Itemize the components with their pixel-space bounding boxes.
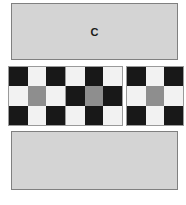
checker-cell	[9, 67, 28, 86]
checker-cell	[46, 86, 65, 105]
top-gray-panel: C	[11, 3, 178, 60]
checker-cell	[28, 67, 47, 86]
checker-cell	[146, 67, 165, 86]
checker-cell	[103, 106, 122, 125]
checker-cell	[9, 86, 28, 105]
checker-cell	[85, 106, 104, 125]
checker-cell	[85, 67, 104, 86]
panel-label-c: C	[12, 26, 177, 37]
checker-cell	[9, 106, 28, 125]
checker-cell	[127, 106, 146, 125]
checkerboard-right	[126, 66, 184, 126]
checker-cell	[103, 86, 122, 105]
checker-cell	[66, 67, 85, 86]
checker-cell	[66, 86, 85, 105]
checker-center-cell	[28, 86, 47, 105]
checkerboard-middle	[65, 66, 123, 126]
checker-cell	[46, 67, 65, 86]
bottom-gray-panel	[11, 131, 178, 190]
checker-center-cell	[146, 86, 165, 105]
checker-center-cell	[85, 86, 104, 105]
checker-cell	[164, 106, 183, 125]
checker-cell	[103, 67, 122, 86]
figure-panel-c: C	[0, 0, 186, 205]
checkerboard-row	[0, 66, 186, 126]
checker-cell	[28, 106, 47, 125]
checker-cell	[127, 86, 146, 105]
checker-cell	[46, 106, 65, 125]
checker-cell	[164, 86, 183, 105]
checker-cell	[66, 106, 85, 125]
checker-cell	[127, 67, 146, 86]
checker-cell	[146, 106, 165, 125]
checkerboard-left	[8, 66, 66, 126]
checker-cell	[164, 67, 183, 86]
